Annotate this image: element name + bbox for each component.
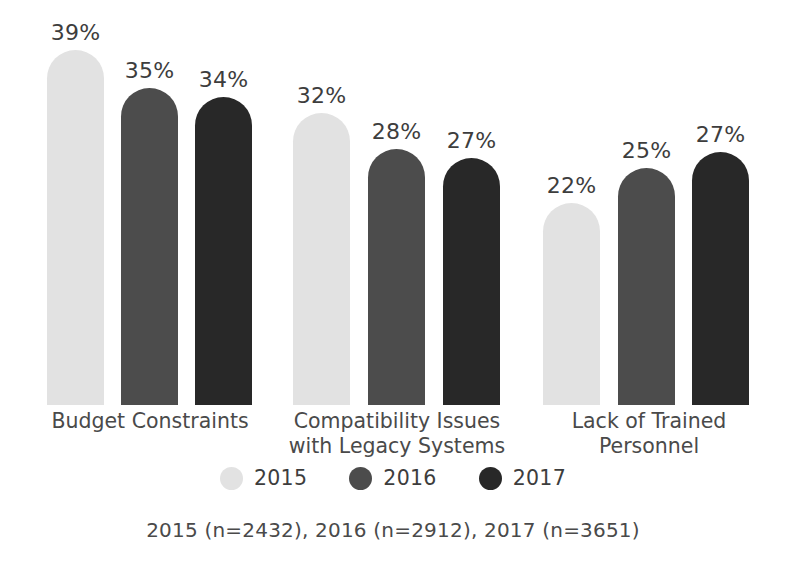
legend-swatch-icon	[479, 467, 502, 490]
bar-value-label: 27%	[425, 128, 518, 153]
category-label-budget-constraints: Budget Constraints	[20, 409, 280, 434]
bar-2016[interactable]	[368, 149, 425, 405]
bar-value-label: 32%	[275, 83, 368, 108]
bar-2017[interactable]	[443, 158, 500, 405]
bar-2016[interactable]	[618, 168, 675, 405]
bar-2017[interactable]	[195, 97, 252, 405]
legend-label: 2016	[383, 466, 436, 490]
bar-2017[interactable]	[692, 152, 749, 405]
bar-value-label: 34%	[177, 67, 270, 92]
legend-swatch-icon	[349, 467, 372, 490]
category-axis-labels: Budget Constraints Compatibility Issues …	[0, 409, 786, 471]
bar-value-label: 39%	[29, 20, 122, 45]
legend-label: 2015	[254, 466, 307, 490]
grouped-bar-chart: 39% 35% 34% 32% 28% 27%	[0, 0, 786, 568]
category-label-compatibility-issues: Compatibility Issues with Legacy Systems	[272, 409, 522, 459]
legend-item-2017[interactable]: 2017	[479, 466, 566, 490]
legend-item-2015[interactable]: 2015	[220, 466, 307, 490]
legend-item-2016[interactable]: 2016	[349, 466, 436, 490]
bar-value-label: 22%	[525, 173, 618, 198]
bar-2015[interactable]	[47, 50, 104, 405]
category-label-lack-of-trained-personnel: Lack of Trained Personnel	[530, 409, 768, 459]
bar-value-label: 27%	[674, 122, 767, 147]
legend-swatch-icon	[220, 467, 243, 490]
bar-2016[interactable]	[121, 88, 178, 405]
legend: 2015 2016 2017	[0, 466, 786, 490]
bar-2015[interactable]	[293, 113, 350, 405]
legend-label: 2017	[513, 466, 566, 490]
chart-footnote: 2015 (n=2432), 2016 (n=2912), 2017 (n=36…	[0, 518, 786, 542]
plot-area: 39% 35% 34% 32% 28% 27%	[0, 0, 786, 410]
bar-group-lack-of-trained-personnel: 22% 25% 27%	[543, 0, 750, 410]
bar-2015[interactable]	[543, 203, 600, 405]
bar-group-compatibility-issues: 32% 28% 27%	[293, 0, 500, 410]
bar-group-budget-constraints: 39% 35% 34%	[47, 0, 252, 410]
